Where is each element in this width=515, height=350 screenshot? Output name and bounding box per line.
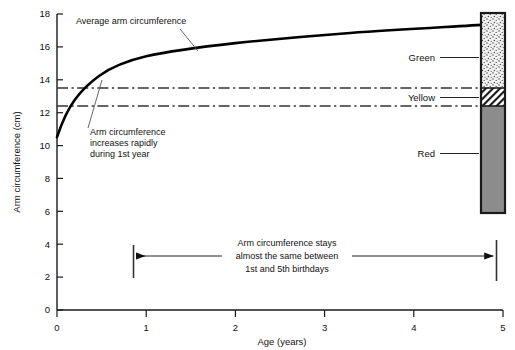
arm-circumference-chart: 0 2 4 6 8 10 12 14 16 18 0 1 2 3 4 5 bbox=[0, 0, 515, 350]
x-tick-label: 1 bbox=[144, 322, 149, 333]
plateau-line-3: 1st and 5th birthdays bbox=[245, 264, 329, 274]
band-yellow bbox=[481, 88, 505, 106]
y-tick-label: 14 bbox=[39, 74, 50, 85]
y-tick-label: 2 bbox=[45, 271, 50, 282]
rapid-growth-line-1: Arm circumference bbox=[90, 127, 166, 137]
band-label-yellow: Yellow bbox=[408, 92, 435, 103]
color-band-strip bbox=[481, 13, 505, 213]
curve-label-text: Average arm circumference bbox=[76, 16, 186, 26]
y-tick-label: 8 bbox=[45, 173, 50, 184]
band-label-red: Red bbox=[418, 148, 435, 159]
chart-figure: 0 2 4 6 8 10 12 14 16 18 0 1 2 3 4 5 bbox=[0, 0, 515, 350]
y-axis-title: Arm circumference (cm) bbox=[11, 111, 22, 212]
rapid-growth-line-2: increases rapidly bbox=[90, 138, 158, 148]
y-tick-label: 12 bbox=[39, 107, 50, 118]
plateau-line-2: almost the same between bbox=[236, 251, 339, 261]
rapid-growth-line-3: during 1st year bbox=[90, 149, 150, 159]
y-tick-label: 18 bbox=[39, 8, 50, 19]
band-green bbox=[481, 13, 505, 88]
x-tick-label: 2 bbox=[233, 322, 238, 333]
x-tick-label: 0 bbox=[54, 322, 59, 333]
x-axis-title: Age (years) bbox=[257, 336, 306, 347]
y-tick-label: 0 bbox=[45, 304, 50, 315]
y-tick-label: 16 bbox=[39, 41, 50, 52]
x-tick-label: 3 bbox=[322, 322, 327, 333]
plateau-line-1: Arm circumference stays bbox=[237, 238, 337, 248]
y-tick-label: 10 bbox=[39, 140, 50, 151]
y-tick-label: 6 bbox=[45, 206, 50, 217]
y-tick-label: 4 bbox=[45, 239, 50, 250]
band-red bbox=[481, 106, 505, 213]
x-tick-label: 4 bbox=[411, 322, 416, 333]
chart-background bbox=[0, 0, 515, 350]
band-label-green: Green bbox=[409, 52, 435, 63]
x-tick-label: 5 bbox=[500, 322, 505, 333]
